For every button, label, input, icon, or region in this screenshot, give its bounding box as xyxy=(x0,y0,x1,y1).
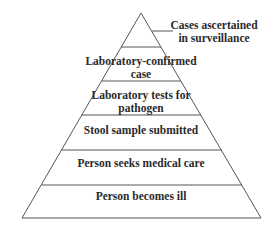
layer-label: Laboratory tests for xyxy=(91,89,190,102)
apex-label: Cases ascertained in surveillance xyxy=(170,19,258,44)
layer-label: Laboratory-confirmed xyxy=(85,55,197,68)
pyramid-diagram: Cases ascertained in surveillance Labora… xyxy=(0,0,280,228)
layer-stool-sample: Stool sample submitted xyxy=(84,124,199,137)
layer-becomes-ill: Person becomes ill xyxy=(96,190,187,202)
layer-seeks-care: Person seeks medical care xyxy=(77,157,204,169)
layer-laboratory-confirmed: Laboratory-confirmed case xyxy=(85,55,197,80)
layer-label: Person becomes ill xyxy=(96,190,187,202)
layer-laboratory-tests: Laboratory tests for pathogen xyxy=(91,89,190,115)
apex-label-line1: Cases ascertained xyxy=(170,19,258,31)
layer-label: pathogen xyxy=(118,102,164,115)
apex-label-line2: in surveillance xyxy=(178,32,249,44)
layer-label: Stool sample submitted xyxy=(84,124,199,137)
layer-label: Person seeks medical care xyxy=(77,157,204,169)
layer-label: case xyxy=(131,68,151,80)
